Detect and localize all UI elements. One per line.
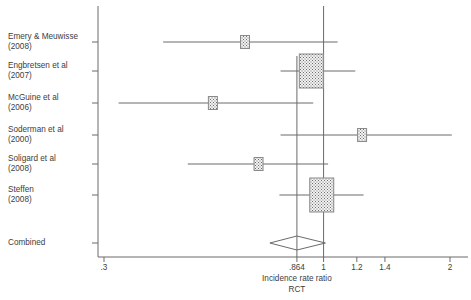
effect-estimate-marker (358, 129, 367, 142)
x-axis-subtitle: RCT (288, 285, 305, 294)
x-tick-label-4: 1.4 (379, 263, 390, 272)
x-tick-label-3: 1.2 (351, 263, 362, 272)
effect-estimate-marker (241, 36, 250, 49)
x-tick-label-5: 2 (448, 263, 453, 272)
effect-estimate-marker (254, 158, 263, 171)
study-label-6: Steffen(2008) (8, 185, 34, 206)
effect-estimate-marker (299, 54, 323, 88)
study-label-4: Soderman et al(2000) (8, 125, 64, 146)
study-label-2: Engbretsen et al(2007) (8, 61, 68, 82)
effect-estimate-marker (310, 178, 334, 212)
study-row-2 (281, 54, 356, 88)
study-row-1 (163, 36, 337, 49)
study-label-5: Soligard et al(2008) (8, 154, 56, 175)
effect-estimate-marker (208, 97, 217, 110)
study-label-1: Emery & Meuwisse(2008) (8, 32, 78, 53)
x-tick-label-0: .3 (101, 263, 108, 272)
study-label-3: McGuine et al(2006) (8, 93, 59, 114)
combined-diamond (270, 236, 326, 250)
x-axis-title: Incidence rate ratio (262, 274, 332, 283)
study-row-6 (279, 178, 363, 212)
x-tick-label-2: 1 (321, 263, 326, 272)
x-tick-label-1: .864 (289, 263, 305, 272)
study-row-5 (188, 158, 328, 171)
study-row-3 (119, 97, 314, 110)
study-row-4 (281, 129, 452, 142)
combined-label: Combined (8, 238, 45, 248)
